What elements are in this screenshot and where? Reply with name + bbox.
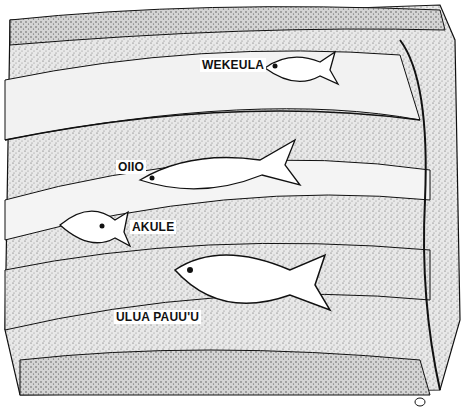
label-ulua-pauuu: ULUA PAUU'U: [114, 310, 201, 324]
label-oiio: OIIO: [116, 160, 146, 174]
label-wekeula: WEKEULA: [200, 58, 266, 72]
label-akule: AKULE: [130, 220, 176, 234]
reef-illustration: WEKEULA OIIO AKULE ULUA PAUU'U: [0, 0, 464, 416]
